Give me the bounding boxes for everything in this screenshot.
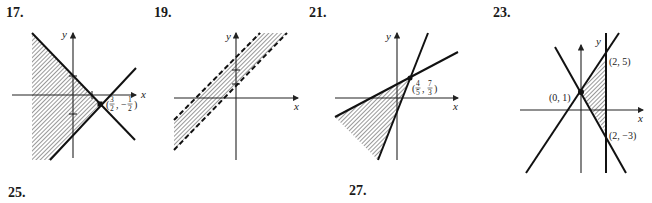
x-label-21: x: [452, 100, 458, 112]
vertex-label-23-top: (2, 5): [609, 56, 631, 68]
shaded-region-23: [581, 58, 606, 133]
svg-text:3: 3: [428, 88, 432, 97]
svg-text:2: 2: [128, 104, 132, 113]
shaded-region-17: [32, 33, 100, 160]
svg-text:−: −: [121, 99, 127, 110]
svg-text:,: ,: [116, 99, 119, 110]
y-label-21: y: [385, 30, 391, 42]
svg-text:3: 3: [110, 95, 114, 104]
graph-23: x y (2, 5) (0, 1) (2, −3): [520, 33, 643, 173]
vertex-dot-21: [408, 76, 413, 81]
graphs-canvas: x y ( 3 2 , − 1 2 ) x y x: [0, 0, 652, 203]
dashed-boundary-19b: [174, 33, 287, 150]
svg-text:): ): [134, 99, 137, 111]
graph-19: x y: [174, 30, 299, 160]
svg-text:7: 7: [428, 79, 432, 88]
y-label-23: y: [595, 35, 601, 47]
svg-text:): ): [434, 83, 437, 95]
vertex-label-17: ( 3 2 , − 1 2 ): [106, 95, 137, 113]
vertex-label-23-bottom: (2, −3): [609, 130, 636, 142]
svg-text:,: ,: [422, 83, 425, 94]
x-label-23: x: [637, 112, 643, 124]
vertex-dot-17: [98, 102, 103, 107]
vertex-dot-23: [578, 89, 584, 95]
graph-21: x y ( 4 5 , 7 3 ): [335, 30, 458, 160]
vertex-label-21: ( 4 5 , 7 3 ): [412, 79, 437, 97]
svg-text:4: 4: [416, 79, 420, 88]
svg-text:1: 1: [128, 95, 132, 104]
vertex-label-23-left: (0, 1): [549, 92, 571, 104]
svg-text:5: 5: [416, 88, 420, 97]
y-label-19: y: [225, 30, 231, 42]
svg-text:2: 2: [110, 104, 114, 113]
y-label-17: y: [61, 28, 67, 40]
x-label-19: x: [293, 100, 299, 112]
graph-17: x y ( 3 2 , − 1 2 ): [12, 28, 146, 160]
x-label-17: x: [140, 88, 146, 100]
shaded-region-21: [335, 78, 410, 160]
